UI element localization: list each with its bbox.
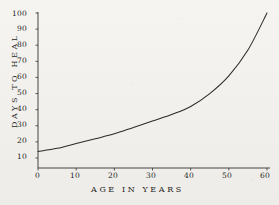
xtick-label: 50 [222,171,232,180]
x-axis-title: AGE IN YEARS [91,185,184,194]
ytick-label: 10 [17,152,27,161]
y-axis-title: DAYS TO HEAL [10,33,19,128]
xtick-label: 0 [35,171,40,180]
ytick-label: 100 [12,9,27,18]
xtick-label: 10 [70,171,80,180]
line-chart-plot [0,0,279,205]
xtick-label: 20 [108,171,118,180]
ytick-label: 20 [17,136,27,145]
xtick-label: 30 [146,171,156,180]
xtick-label: 40 [184,171,194,180]
ytick-label: 90 [17,24,27,33]
chart-figure: 100 90 80 70 60 50 40 30 20 10 0 10 20 3… [0,0,279,205]
xtick-label: 60 [260,171,270,180]
